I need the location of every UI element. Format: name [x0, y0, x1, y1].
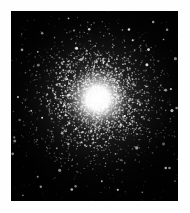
globular-cluster-starfield	[11, 11, 178, 201]
figure-page	[0, 0, 190, 213]
cluster-image-frame	[11, 11, 178, 201]
